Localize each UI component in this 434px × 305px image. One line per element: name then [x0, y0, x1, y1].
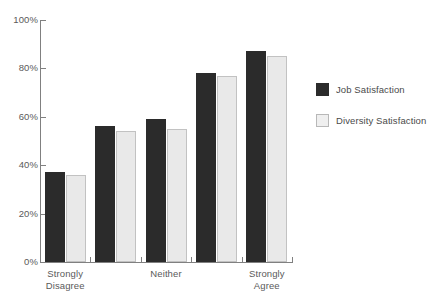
bar-chart: 100%80%60%40%20%0% StronglyDisagreeNeith…: [0, 0, 434, 305]
category-label-line2: Disagree: [20, 280, 110, 292]
chart-legend: Job SatisfactionDiversity Satisfaction: [316, 82, 434, 144]
bar-job-satisfaction: [246, 51, 266, 262]
y-axis-tick-label: 60%: [4, 112, 38, 122]
bar-job-satisfaction: [146, 119, 166, 262]
bar-diversity-satisfaction: [116, 131, 136, 262]
legend-item: Job Satisfaction: [316, 82, 434, 96]
y-axis-tick-label: 0%: [4, 257, 38, 267]
legend-label: Job Satisfaction: [336, 84, 405, 95]
category-label-line1: Strongly: [222, 268, 312, 280]
legend-swatch-icon: [316, 114, 329, 127]
y-axis-tick-label: 80%: [4, 63, 38, 73]
bar-group: [246, 20, 287, 262]
bar-group: [45, 20, 86, 262]
bar-job-satisfaction: [45, 172, 65, 262]
y-axis-tick-label: 100%: [4, 15, 38, 25]
x-axis-line: [40, 262, 293, 263]
bar-group: [146, 20, 187, 262]
x-axis-tick-mark: [292, 257, 293, 263]
bar-diversity-satisfaction: [66, 175, 86, 262]
category-label-line2: Agree: [222, 280, 312, 292]
legend-label: Diversity Satisfaction: [336, 115, 426, 126]
x-axis-category-label: StronglyAgree: [222, 268, 312, 292]
y-axis-tick-label: 40%: [4, 160, 38, 170]
bar-diversity-satisfaction: [267, 56, 287, 262]
bar-job-satisfaction: [95, 126, 115, 262]
bar-job-satisfaction: [196, 73, 216, 262]
category-label-line1: Neither: [121, 268, 211, 280]
bar-diversity-satisfaction: [217, 76, 237, 262]
x-axis-category-label: Neither: [121, 268, 211, 280]
x-axis-category-label: StronglyDisagree: [20, 268, 110, 292]
category-label-line1: Strongly: [20, 268, 110, 280]
y-axis-tick-label: 20%: [4, 209, 38, 219]
legend-swatch-icon: [316, 83, 329, 96]
plot-area: [40, 20, 292, 262]
bar-group: [196, 20, 237, 262]
bar-diversity-satisfaction: [167, 129, 187, 262]
legend-item: Diversity Satisfaction: [316, 113, 434, 127]
bar-group: [95, 20, 136, 262]
